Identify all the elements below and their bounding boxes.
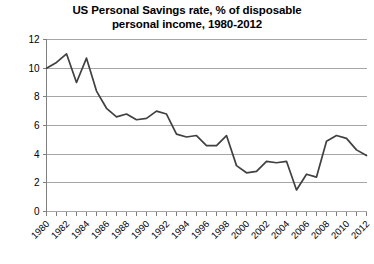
x-tick-label: 1990 (129, 218, 152, 241)
y-tick-label: 8 (34, 91, 40, 102)
y-tick-label: 6 (34, 120, 40, 131)
chart-plot-area: 024681012 198019821984198619881990199219… (0, 0, 374, 264)
x-tick-label: 2006 (289, 218, 312, 241)
x-tick-label: 2002 (249, 218, 272, 241)
y-tick-labels: 024681012 (28, 34, 40, 217)
y-tick-label: 4 (34, 149, 40, 160)
x-tick-label: 2000 (229, 218, 252, 241)
y-tick-label: 10 (28, 63, 40, 74)
x-tick-label: 1980 (29, 218, 52, 241)
x-tick-label: 1994 (169, 218, 192, 241)
data-series (47, 54, 367, 190)
x-tick-label: 1988 (109, 218, 132, 241)
savings-rate-line-chart: US Personal Savings rate, % of disposabl… (0, 0, 374, 264)
x-tick-label: 1996 (189, 218, 212, 241)
x-tick-labels: 1980198219841986198819901992199419961998… (29, 218, 372, 241)
x-tick-label: 2012 (349, 218, 372, 241)
x-tick-label: 1992 (149, 218, 172, 241)
x-tick-label: 2010 (329, 218, 352, 241)
x-tick-marks (47, 212, 367, 216)
y-tick-label: 2 (34, 177, 40, 188)
gridlines (47, 40, 367, 212)
x-tick-label: 1984 (69, 218, 92, 241)
y-tick-label: 0 (34, 206, 40, 217)
x-tick-label: 2008 (309, 218, 332, 241)
x-tick-label: 2004 (269, 218, 292, 241)
y-tick-label: 12 (28, 34, 40, 45)
x-tick-label: 1998 (209, 218, 232, 241)
x-tick-label: 1982 (49, 218, 72, 241)
axis-lines (43, 40, 47, 212)
savings-rate-line (47, 54, 367, 190)
x-tick-label: 1986 (89, 218, 112, 241)
